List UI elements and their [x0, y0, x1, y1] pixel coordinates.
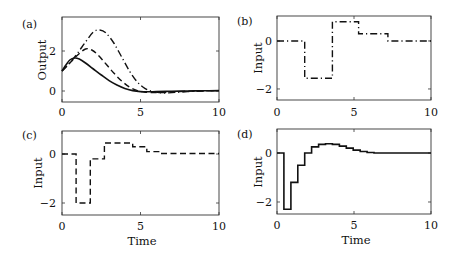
ylabel-a: Output	[35, 39, 49, 80]
panel-d: (d) Input 0 −2 0 5 10 Time	[237, 128, 438, 247]
xtick-b-5: 5	[351, 106, 358, 119]
plot-area-a	[62, 17, 219, 102]
xtick-d-10: 10	[424, 219, 438, 232]
series-dash-dot	[277, 22, 431, 78]
xlabel-c: Time	[127, 234, 156, 248]
series-dashed	[62, 49, 219, 93]
panel-c: (c) Input 0 −2 0 5 10 Time	[22, 129, 226, 248]
ytick-d-neg2: −2	[256, 196, 272, 209]
series-dash-dot	[62, 30, 219, 93]
series-dashed	[62, 143, 219, 203]
xtick-a-5: 5	[137, 106, 144, 119]
panel-label-c: (c)	[22, 129, 37, 142]
panel-label-d: (d)	[237, 128, 253, 141]
plot-area-d	[277, 129, 431, 214]
xlabel-d: Time	[341, 233, 370, 247]
ytick-d-0: 0	[265, 147, 272, 160]
ytick-c-neg2: −2	[40, 197, 56, 210]
axes-frame	[62, 17, 219, 102]
ytick-a-2: 2	[49, 45, 56, 58]
ylabel-d: Input	[251, 156, 265, 188]
panel-label-a: (a)	[22, 18, 37, 31]
xtick-a-10: 10	[212, 106, 226, 119]
xtick-c-5: 5	[137, 220, 144, 233]
panel-b: (b) Input 0 −2 0 5 10	[237, 15, 438, 119]
figure: (a) Output 0 2 0 5 10 (b) Input 0 −2 0 5…	[0, 0, 458, 257]
series-solid	[277, 144, 431, 210]
series-solid	[62, 58, 219, 92]
xtick-d-0: 0	[274, 219, 281, 232]
xtick-d-5: 5	[351, 219, 358, 232]
xtick-a-0: 0	[59, 106, 66, 119]
ytick-b-0: 0	[265, 35, 272, 48]
axes-frame	[277, 16, 431, 100]
xtick-c-0: 0	[59, 220, 66, 233]
ylabel-b: Input	[251, 42, 265, 74]
plot-area-b	[277, 16, 431, 100]
ytick-c-0: 0	[49, 148, 56, 161]
xtick-c-10: 10	[212, 220, 226, 233]
ytick-a-0: 0	[49, 85, 56, 98]
panel-a: (a) Output 0 2 0 5 10	[22, 17, 226, 119]
axes-frame	[62, 131, 219, 215]
xtick-b-10: 10	[424, 106, 438, 119]
plot-area-c	[62, 131, 219, 215]
axes-frame	[277, 129, 431, 214]
xtick-b-0: 0	[274, 106, 281, 119]
panel-label-b: (b)	[237, 15, 253, 28]
ylabel-c: Input	[31, 157, 45, 189]
ytick-b-neg2: −2	[256, 83, 272, 96]
